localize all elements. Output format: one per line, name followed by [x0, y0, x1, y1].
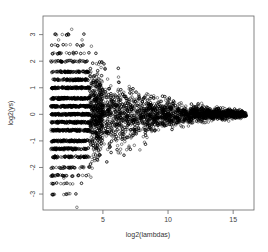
- x-axis: 51015: [101, 210, 237, 223]
- x-tick-label: 15: [229, 216, 237, 223]
- x-tick-label: 5: [101, 216, 105, 223]
- x-axis-title: log2(lambdas): [126, 231, 170, 239]
- y-tick-label: 1: [29, 86, 36, 90]
- y-tick-label: -2: [29, 164, 36, 170]
- y-tick-label: -1: [29, 138, 36, 144]
- y-axis: -3-2-10123: [29, 33, 43, 198]
- y-tick-label: 3: [29, 33, 36, 37]
- scatter-chart: 51015 -3-2-10123 log2(lambdas) log2(ys): [0, 0, 268, 252]
- x-tick-label: 10: [164, 216, 172, 223]
- data-points: [50, 28, 248, 209]
- y-tick-label: 2: [29, 59, 36, 63]
- y-axis-title: log2(ys): [7, 101, 15, 126]
- y-tick-label: -3: [29, 191, 36, 197]
- y-tick-label: 0: [29, 112, 36, 116]
